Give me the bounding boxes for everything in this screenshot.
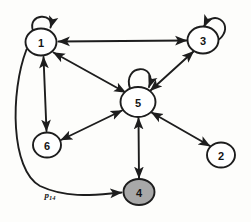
self-loop-n5 bbox=[129, 69, 151, 88]
node-n3[interactable] bbox=[188, 27, 219, 54]
edge-n1-n3 bbox=[59, 41, 187, 42]
edge-n5-n4 bbox=[139, 118, 140, 178]
edge-n1-n4-curved bbox=[16, 50, 122, 196]
diagram-canvas: 1 3 5 6 2 4 p14 bbox=[0, 0, 251, 222]
edge-n1-n5 bbox=[54, 53, 126, 93]
node-n4[interactable] bbox=[124, 179, 155, 205]
node-n6[interactable] bbox=[33, 133, 61, 158]
edge-n1-n6 bbox=[44, 57, 47, 131]
edge-label-p14-subscript: 14 bbox=[49, 194, 56, 201]
node-n1[interactable] bbox=[26, 29, 57, 56]
edge-n5-n2 bbox=[152, 113, 211, 147]
node-n2[interactable] bbox=[207, 143, 235, 168]
edge-n5-n6 bbox=[61, 111, 122, 141]
node-n5[interactable] bbox=[121, 87, 156, 117]
edge-n3-n5 bbox=[151, 52, 194, 91]
graph-svg: 1 3 5 6 2 4 p14 bbox=[0, 0, 251, 222]
